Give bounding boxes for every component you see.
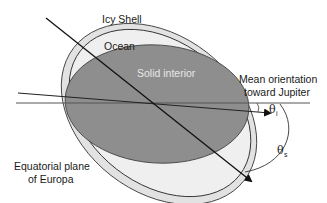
mean-orientation-label-line2: toward Jupiter bbox=[244, 86, 310, 98]
theta-i-arc bbox=[257, 103, 259, 112]
solid-interior-label: Solid interior bbox=[137, 67, 196, 79]
equatorial-plane-label-line1: Equatorial plane bbox=[14, 160, 90, 172]
theta-i-label: θ bbox=[269, 103, 276, 116]
icy-shell-label: Icy Shell bbox=[102, 13, 142, 25]
mean-orientation-label-line1: Mean orientation bbox=[239, 73, 317, 85]
europa-interior-diagram: Icy Shell Ocean Solid interior Mean orie… bbox=[0, 0, 327, 203]
equatorial-plane-label-line2: of Europa bbox=[28, 173, 74, 185]
theta-s-label: θ bbox=[277, 144, 284, 157]
ocean-label: Ocean bbox=[104, 40, 135, 52]
theta-s-subscript: s bbox=[284, 151, 288, 158]
theta-i-subscript: i bbox=[276, 110, 278, 117]
